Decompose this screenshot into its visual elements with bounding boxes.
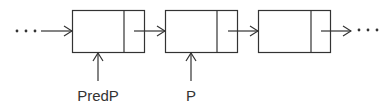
list-node-2 bbox=[166, 11, 238, 53]
leading-ellipsis bbox=[16, 30, 37, 33]
p-label: P bbox=[186, 87, 196, 104]
predp-label: PredP bbox=[77, 87, 119, 104]
trailing-ellipsis bbox=[358, 29, 379, 32]
list-node-1 bbox=[73, 11, 145, 53]
linked-list-diagram: PredP P bbox=[0, 0, 392, 108]
list-node-3 bbox=[259, 11, 331, 53]
